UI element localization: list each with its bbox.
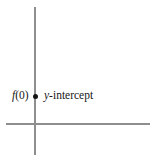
x-axis-line xyxy=(6,123,150,125)
function-value-label: f(0) xyxy=(12,90,29,102)
y-axis-line xyxy=(34,7,36,155)
y-intercept-point xyxy=(33,94,38,99)
function-arguments-text: (0) xyxy=(15,89,28,101)
intercept-word-text: -intercept xyxy=(49,89,93,101)
y-intercept-label: y-intercept xyxy=(44,90,93,102)
y-intercept-figure: f(0) y-intercept xyxy=(0,0,157,162)
